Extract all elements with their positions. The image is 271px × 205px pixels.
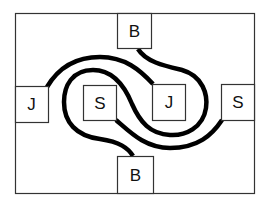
- box-label: B: [130, 166, 141, 185]
- box-center-s: S: [84, 86, 117, 121]
- box-left-j: J: [16, 87, 49, 123]
- box-label: J: [165, 93, 174, 112]
- box-top-b: B: [118, 14, 152, 49]
- box-label: S: [94, 94, 105, 113]
- diagram-canvas: B J S J S B: [0, 0, 271, 205]
- box-label: J: [27, 95, 36, 114]
- box-bottom-b: B: [118, 157, 154, 194]
- box-label: S: [232, 93, 243, 112]
- box-label: B: [129, 22, 140, 41]
- box-center-j: J: [153, 85, 186, 121]
- box-right-s: S: [222, 85, 255, 121]
